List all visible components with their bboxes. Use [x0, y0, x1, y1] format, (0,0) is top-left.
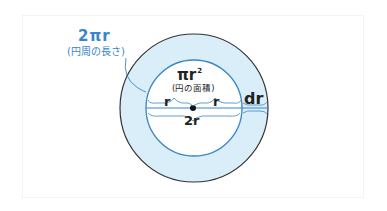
- area-formula-exponent: 2: [197, 67, 202, 75]
- circle-ring-diagram: [0, 0, 387, 211]
- circumference-caption: (円周の長さ): [67, 47, 125, 57]
- radius-label-right: r: [213, 95, 219, 108]
- diameter-label: 2r: [184, 114, 199, 127]
- area-formula: πr2: [177, 68, 202, 83]
- area-formula-base: πr: [177, 66, 196, 84]
- radius-label-left: r: [164, 95, 170, 108]
- thickness-label: dr: [244, 91, 263, 107]
- circumference-formula: 2πr: [78, 29, 111, 44]
- area-caption: (円の面積): [172, 84, 215, 93]
